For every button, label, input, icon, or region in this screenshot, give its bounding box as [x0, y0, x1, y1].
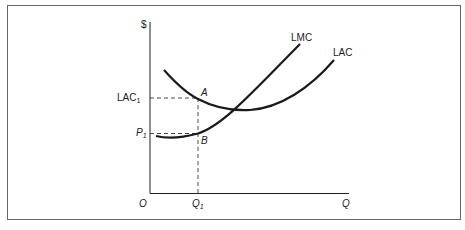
- point-b-label: B: [201, 136, 208, 146]
- frame-border: [8, 6, 461, 220]
- lac-curve: [164, 60, 334, 110]
- q1-main: Q: [192, 198, 200, 209]
- p1-tick-label: P1: [136, 128, 147, 139]
- cost-curve-diagram: $ O Q LMC LAC A B LAC1 P1 Q1: [0, 0, 465, 230]
- p1-main: P: [136, 127, 143, 138]
- lac1-main: LAC: [117, 92, 136, 103]
- point-a-label: A: [201, 88, 208, 98]
- lac-label: LAC: [333, 48, 352, 58]
- q1-tick-label: Q1: [192, 199, 204, 210]
- origin-label: O: [139, 199, 147, 209]
- x-axis-label: Q: [342, 199, 350, 209]
- lmc-curve: [156, 44, 300, 137]
- q1-sub: 1: [200, 203, 204, 210]
- lac1-sub: 1: [136, 97, 140, 104]
- diagram-canvas: [0, 0, 465, 230]
- p1-sub: 1: [143, 132, 147, 139]
- lmc-label: LMC: [291, 33, 312, 43]
- y-axis-label: $: [141, 20, 147, 30]
- lac1-tick-label: LAC1: [117, 93, 140, 104]
